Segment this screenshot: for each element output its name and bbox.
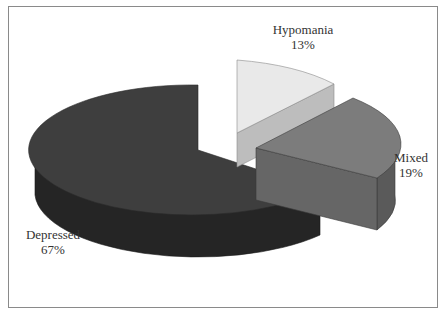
label-mixed: Mixed 19% — [385, 150, 437, 180]
label-depressed: Depressed 67% — [13, 227, 93, 257]
label-hypomania-name: Hypomania — [258, 22, 348, 37]
label-hypomania-pct: 13% — [258, 37, 348, 52]
label-mixed-pct: 19% — [385, 165, 437, 180]
label-depressed-name: Depressed — [13, 227, 93, 242]
pie-chart — [0, 0, 445, 317]
label-mixed-name: Mixed — [385, 150, 437, 165]
label-hypomania: Hypomania 13% — [258, 22, 348, 52]
label-depressed-pct: 67% — [13, 242, 93, 257]
